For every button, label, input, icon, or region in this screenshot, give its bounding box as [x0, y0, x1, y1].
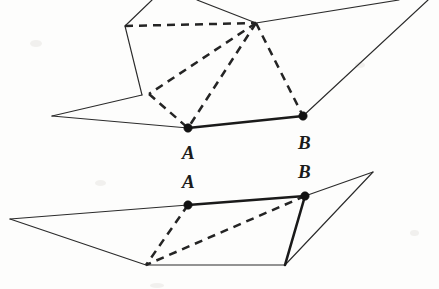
edge-apex-to-top-right [256, 0, 399, 23]
dashed-apex-to-a [188, 23, 256, 128]
edge-b-to-farright [305, 172, 373, 196]
edge-farleft-to-a [52, 116, 188, 128]
label-point-a-upper: A [182, 143, 195, 162]
edge-right-out-to-b [303, 0, 428, 116]
edge-top-mid-to-apex [197, 0, 256, 23]
dashed-apex-to-b [256, 23, 303, 116]
edge-left-down [125, 26, 142, 95]
upper-figure-group [52, 0, 428, 132]
figure-canvas [0, 0, 439, 289]
label-point-a-lower: A [182, 172, 195, 191]
label-point-b-lower: B [298, 162, 311, 181]
dot-b-upper [299, 112, 307, 120]
label-point-b-upper: B [298, 133, 311, 152]
upper-dashed-edges [125, 23, 303, 128]
dot-b-lower [301, 192, 309, 200]
edge-farleft-to-bottomleft [10, 219, 146, 265]
edge-left-to-farleft [52, 95, 142, 116]
dashed-a-to-bottomleft [146, 205, 188, 265]
edge-farleft-to-a-lower [10, 205, 188, 219]
dot-a-upper [184, 124, 192, 132]
dashed-apex-to-corner [149, 23, 256, 94]
geometry-figure: A B A B [0, 0, 439, 289]
segment-ab-upper [188, 116, 303, 128]
edge-left-upper-out [125, 0, 152, 26]
dashed-corner-to-a [149, 94, 188, 128]
dot-a-lower [184, 201, 192, 209]
dashed-fold-top [125, 23, 256, 26]
upper-solid-edges [52, 0, 428, 128]
